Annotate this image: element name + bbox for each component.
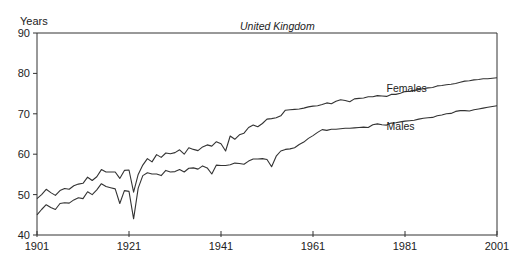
x-tick-label: 1941 [209,240,233,252]
plot-frame [37,33,497,235]
x-tick-label: 1921 [117,240,141,252]
y-tick-label: 50 [18,189,30,201]
y-axis-ticks: 405060708090 [18,27,37,241]
y-tick-label: 90 [18,27,30,39]
x-tick-label: 1961 [301,240,325,252]
y-tick-label: 70 [18,108,30,120]
x-tick-label: 1901 [25,240,49,252]
series-lines: FemalesMales [37,78,497,219]
life-expectancy-chart: 405060708090 190119211941196119812001 Ye… [0,0,525,271]
y-axis-label: Years [20,15,48,27]
x-axis-ticks: 190119211941196119812001 [25,231,509,252]
chart-title: United Kingdom [240,20,315,32]
x-tick-label: 1981 [393,240,417,252]
males-line [37,106,497,219]
y-tick-label: 80 [18,67,30,79]
females-line [37,78,497,199]
x-tick-label: 2001 [485,240,509,252]
y-tick-label: 60 [18,148,30,160]
females-series-label: Females [387,82,427,94]
males-series-label: Males [387,120,415,132]
